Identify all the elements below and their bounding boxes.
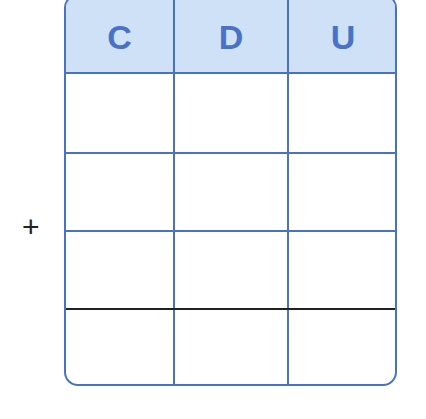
cell-r3-c[interactable]	[66, 232, 173, 308]
cell-r3-d[interactable]	[175, 232, 287, 308]
cell-r1-c[interactable]	[66, 74, 173, 152]
cell-result-c[interactable]	[66, 310, 173, 386]
cell-r1-d[interactable]	[175, 74, 287, 152]
cell-result-u[interactable]	[289, 310, 397, 386]
place-value-table: C D U	[64, 0, 397, 386]
cell-r2-d[interactable]	[175, 154, 287, 230]
cell-r2-u[interactable]	[289, 154, 397, 230]
column-header-units: U	[289, 2, 397, 72]
cell-r3-u[interactable]	[289, 232, 397, 308]
column-header-hundreds: C	[66, 2, 173, 72]
cell-result-d[interactable]	[175, 310, 287, 386]
plus-operator: +	[22, 212, 40, 242]
column-header-tens: D	[175, 2, 287, 72]
cell-r2-c[interactable]	[66, 154, 173, 230]
cell-r1-u[interactable]	[289, 74, 397, 152]
